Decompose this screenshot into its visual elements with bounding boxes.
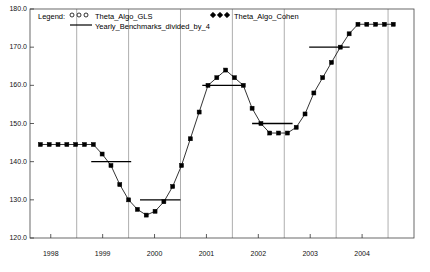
- chart-plot-area: [0, 0, 430, 272]
- chart-container: 180.0170.0160.0150.0140.0130.0120.0 1998…: [0, 0, 430, 272]
- legend-entry-theta-algo-gls: Theta_Algo_GLS: [95, 12, 153, 21]
- gridlines-group: [77, 9, 388, 238]
- y-axis-tick-label: 170.0: [0, 43, 27, 50]
- y-axis-tick-label: 130.0: [0, 196, 27, 203]
- x-axis-tick-label: 2002: [238, 250, 278, 257]
- y-axis-tick-label: 120.0: [0, 234, 27, 241]
- x-axis-tick-label: 2004: [342, 250, 382, 257]
- series-markers-group: [38, 22, 395, 217]
- axis-frame-group: [30, 9, 414, 238]
- x-axis-tick-label: 2000: [135, 250, 175, 257]
- y-axis-tick-label: 180.0: [0, 5, 27, 12]
- series-line-group: [40, 24, 393, 215]
- x-axis-tick-label: 2001: [186, 250, 226, 257]
- legend-entry-theta-algo-cohen: Theta_Algo_Cohen: [234, 12, 299, 21]
- y-axis-tick-label: 140.0: [0, 158, 27, 165]
- x-axis-tick-label: 2003: [290, 250, 330, 257]
- y-axis-tick-label: 160.0: [0, 81, 27, 88]
- x-axis-tick-label: 1998: [31, 250, 71, 257]
- tick-marks-group: [30, 9, 362, 238]
- legend-entry-yearly-benchmarks: Yearly_Benchmarks_divided_by_4: [95, 22, 210, 31]
- legend-title: Legend:: [38, 12, 65, 21]
- y-axis-tick-label: 150.0: [0, 120, 27, 127]
- x-axis-tick-label: 1999: [83, 250, 123, 257]
- benchmark-bars-group: [91, 47, 349, 200]
